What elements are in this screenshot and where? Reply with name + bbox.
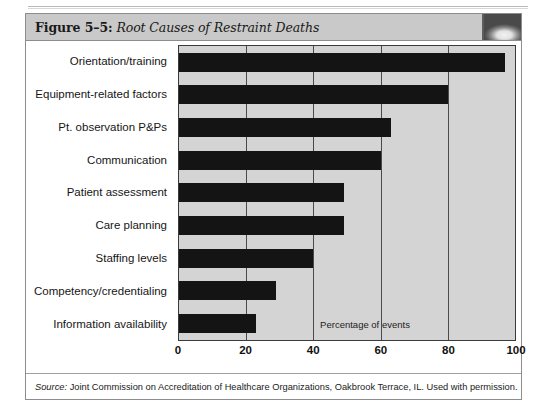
y-axis-category-labels: Orientation/training Equipment-related f… [26,45,174,341]
category-label: Staffing levels [26,249,167,268]
bar-row [179,53,515,72]
x-axis-tick-label: 0 [175,344,181,356]
x-axis-tick-label: 20 [239,344,252,356]
bar-row [179,281,515,300]
category-label: Communication [26,151,167,170]
bar-row [179,118,515,137]
category-label: Orientation/training [26,52,167,71]
bar-row [179,249,515,268]
source-body: Joint Commission on Accreditation of Hea… [67,382,517,392]
x-axis-tick-label: 80 [442,344,455,356]
figure-header-bar: Figure 5–5: Root Causes of Restraint Dea… [26,14,521,41]
bar-series [179,46,515,340]
bar [179,314,256,333]
x-axis-tick-labels: 020406080100 [178,344,516,362]
bar-row [179,216,515,235]
bar [179,183,344,202]
figure-title-text: Root Causes of Restraint Deaths [116,20,319,35]
x-axis-label: Percentage of events [320,319,410,330]
category-label: Patient assessment [26,183,167,202]
x-axis-tick-label: 40 [307,344,320,356]
x-axis-tick-label: 60 [374,344,387,356]
category-label: Care planning [26,216,167,235]
bar [179,281,276,300]
plot-area: Percentage of events [178,45,516,341]
bar [179,216,344,235]
bar-row [179,85,515,104]
bar [179,249,313,268]
bar-row [179,183,515,202]
figure-source-footer: Source: Joint Commission on Accreditatio… [26,373,521,399]
x-axis-tick-label: 100 [506,344,525,356]
bar [179,151,381,170]
category-label: Equipment-related factors [26,85,167,104]
source-label: Source: [35,382,67,392]
source-note: Source: Joint Commission on Accreditatio… [26,382,517,392]
category-label: Information availability [26,315,167,334]
bar [179,118,391,137]
page-top-rule [28,6,528,7]
bar [179,85,448,104]
page-top-rule-secondary [28,8,528,9]
figure-container: Figure 5–5: Root Causes of Restraint Dea… [25,13,522,400]
figure-title: Figure 5–5: Root Causes of Restraint Dea… [26,20,319,35]
category-label: Pt. observation P&Ps [26,118,167,137]
decorative-photo-icon [482,14,521,41]
category-label: Competency/credentialing [26,282,167,301]
chart-region: Orientation/training Equipment-related f… [26,41,521,373]
figure-number: Figure 5–5: [35,20,113,35]
bar [179,53,505,72]
bar-row [179,151,515,170]
